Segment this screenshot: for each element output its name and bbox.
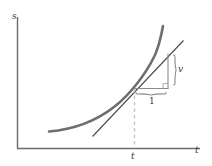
velocity-tangent-figure: s t t v 1 bbox=[0, 0, 212, 166]
rise-brace bbox=[174, 55, 177, 85]
figure-canvas bbox=[0, 0, 212, 166]
rise-label-v: v bbox=[178, 65, 183, 74]
run-label-one: 1 bbox=[149, 97, 155, 106]
run-brace bbox=[136, 93, 166, 96]
x-axis-label: t bbox=[195, 146, 199, 155]
right-angle-marker bbox=[163, 84, 168, 89]
position-curve bbox=[49, 26, 163, 132]
y-axis-label: s bbox=[12, 12, 17, 21]
x-axis-tick-label-t: t bbox=[131, 152, 135, 161]
